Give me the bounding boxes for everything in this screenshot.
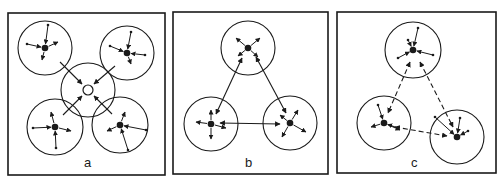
spoke-arrow [238,50,245,56]
cluster [18,21,72,75]
filled-center-node [245,45,252,52]
spoke-arrow [196,122,207,123]
filled-center-node [287,120,294,127]
cluster [385,22,441,78]
spoke-arrow [27,44,41,47]
inter-cluster-link [388,62,410,113]
spoke-arrow [55,131,56,148]
peripheral-dot [432,54,435,57]
spoke-arrow [236,38,245,45]
panel-label-a: a [84,155,92,170]
spoke-arrow [292,110,298,120]
spoke-arrow [42,52,44,60]
cluster [221,21,275,75]
cluster [263,96,317,150]
inter-cluster-link [395,127,447,136]
peripheral-dot [109,45,112,48]
cluster [92,97,148,153]
peripheral-dot [145,129,148,132]
spoke-arrow [110,46,123,51]
panel-frame [173,12,328,174]
spoke-arrow [128,32,131,49]
cluster [184,97,238,151]
peripheral-dot [397,57,400,60]
cluster [357,96,411,150]
inter-cluster-link [420,62,453,127]
spoke-arrow [435,117,454,134]
inter-cluster-link [60,62,82,84]
spoke-arrow [378,105,383,119]
panel-c [337,12,496,173]
filled-center-node [208,121,215,128]
spoke-arrow [49,42,58,46]
filled-center-node [124,50,131,57]
peripheral-dot [407,39,410,42]
peripheral-dot [434,116,437,119]
spoke-arrow [251,51,258,57]
peripheral-dot [55,147,58,150]
peripheral-dot [417,27,420,30]
panel-label-b: b [245,155,252,170]
hollow-center-node [83,85,93,95]
spoke-arrow [121,112,125,121]
cluster [27,99,83,155]
spoke-arrow [293,125,306,132]
peripheral-dot [130,31,133,34]
spoke-arrow [371,124,380,127]
inter-cluster-link [220,123,280,124]
inter-cluster-link [216,58,242,114]
spoke-arrow [128,57,131,64]
spoke-arrow [46,25,48,44]
filled-center-node [410,47,417,54]
cluster [430,110,484,164]
filled-center-node [52,124,59,131]
spoke-arrow [51,112,54,123]
filled-center-node [454,134,461,141]
filled-center-node [42,45,49,52]
peripheral-dot [127,149,130,152]
spoke-arrow [131,53,145,55]
spoke-arrow [398,52,409,58]
spoke-arrow [121,129,128,150]
filled-center-node [381,120,388,127]
spoke-arrow [458,118,460,133]
spoke-arrow [414,28,418,46]
spoke-arrow [280,115,287,121]
filled-center-node [117,122,124,129]
panel-a [8,13,165,175]
peripheral-dot [47,24,50,27]
spoke-arrow [107,127,116,131]
spoke-arrow [417,51,433,55]
spoke-arrow [215,125,226,128]
inter-cluster-link [256,57,286,113]
peripheral-dot [467,130,470,133]
spoke-arrow [282,126,288,137]
peripheral-dot [144,54,147,57]
peripheral-dot [32,127,35,130]
spoke-arrow [251,38,260,45]
peripheral-dot [459,117,462,120]
panel-label-c: c [411,155,418,170]
peripheral-dot [26,43,29,46]
peripheral-dot [377,104,380,107]
figure-canvas: a b c [0,0,501,191]
spoke-arrow [59,128,71,131]
spoke-arrow [124,126,146,130]
panel-b [173,12,328,174]
figure-panels [8,12,496,175]
spoke-arrow [33,127,51,128]
